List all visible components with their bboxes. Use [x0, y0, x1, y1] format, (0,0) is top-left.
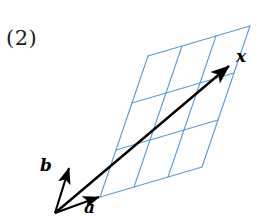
grid-line-row-0 [100, 167, 202, 197]
grid-line-row-1 [116, 120, 218, 150]
figure-canvas: (2) a b x [0, 0, 260, 222]
vector-label-b: b [40, 157, 52, 174]
vector-label-x: x [236, 48, 246, 65]
vector-arrow-x [55, 66, 229, 213]
vector-lattice-diagram [0, 0, 260, 222]
figure-number-label: (2) [6, 28, 37, 49]
grid-line-col-2 [168, 36, 216, 177]
grid-line-row-2 [132, 73, 234, 103]
vector-label-a: a [84, 199, 95, 216]
grid-line-row-3 [148, 26, 250, 56]
vector-arrows [55, 66, 229, 213]
grid-line-col-0 [100, 56, 148, 197]
grid-line-col-1 [134, 46, 182, 187]
